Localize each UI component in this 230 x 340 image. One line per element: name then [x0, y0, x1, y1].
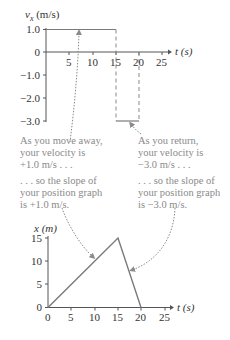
callout-arrow-return-velocity: [131, 124, 141, 134]
note-return-slope: . . . so the slope of your position grap…: [138, 175, 220, 211]
x-ytick-15: 15: [31, 232, 42, 244]
callout-arrow-away-velocity: [70, 32, 79, 142]
v-x-axis-arrow-icon: [168, 50, 172, 55]
position-line: [48, 238, 141, 308]
v-ytick-neg2: −2.0: [20, 92, 40, 104]
v-xtick-5: 5: [66, 56, 72, 68]
x-xtick-15: 15: [112, 311, 123, 323]
note-away-velocity: As you move away, your velocity is +1.0 …: [20, 135, 103, 171]
v-ytick-0: 0: [35, 46, 41, 58]
x-x-axis-arrow-icon: [170, 305, 174, 310]
v-xtick-25: 25: [156, 56, 167, 68]
x-xtick-25: 25: [159, 311, 170, 323]
x-xlabel: t (s): [177, 301, 194, 313]
v-ytick-neg3: −3.0: [20, 115, 40, 127]
position-graph: [45, 236, 174, 311]
v-xlabel: t (s): [175, 45, 192, 57]
callout-arrow-away-slope: [62, 208, 93, 257]
v-xtick-20: 20: [133, 56, 144, 68]
x-xtick-10: 10: [89, 311, 100, 323]
note-away-slope: . . . so the slope of your position grap…: [20, 175, 102, 211]
v-xtick-15: 15: [110, 56, 121, 68]
x-ytick-0: 0: [37, 301, 43, 313]
x-ytick-10: 10: [31, 255, 42, 267]
x-xtick-20: 20: [135, 311, 146, 323]
note-return-velocity: As you return, your velocity is −3.0 m/s…: [138, 135, 203, 171]
v-ylabel: vx (m/s): [25, 8, 59, 23]
x-xtick-5: 5: [68, 311, 74, 323]
x-xtick-0: 0: [45, 311, 51, 323]
v-ytick-neg1: −1.0: [20, 69, 40, 81]
v-ytick-1: 1.0: [26, 23, 40, 35]
v-xtick-10: 10: [87, 56, 98, 68]
callout-arrow-return-slope: [132, 208, 175, 270]
velocity-graph: [43, 28, 172, 122]
x-ytick-5: 5: [37, 278, 43, 290]
